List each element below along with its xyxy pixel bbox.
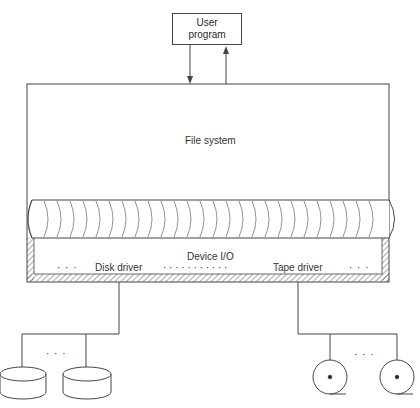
right-ellipsis: · · · [349,262,370,273]
disk-icon [0,367,46,399]
tape-driver-label: Tape driver [273,262,322,273]
disk-ellipsis: · · · [46,348,67,359]
tape-reel-icon [380,360,414,394]
tape-reel-icon [313,360,347,394]
disk-icon [63,367,111,399]
user-program-label-2: program [173,29,241,41]
middle-ellipsis: · · · · · · · · · · · [163,262,227,273]
tape-ellipsis: · · · [354,349,375,360]
left-ellipsis: · · · [57,262,78,273]
file-system-label: File system [185,135,236,146]
disk-connector [22,282,119,371]
interface-cylinder [28,200,395,238]
user-program-label-1: User [173,17,241,29]
disk-driver-label: Disk driver [95,262,142,273]
user-fs-arrows [187,45,229,84]
tape-connector [298,282,397,360]
device-io-label: Device I/O [187,251,234,262]
user-program-box: User program [172,13,242,45]
diagram-canvas [0,0,420,408]
